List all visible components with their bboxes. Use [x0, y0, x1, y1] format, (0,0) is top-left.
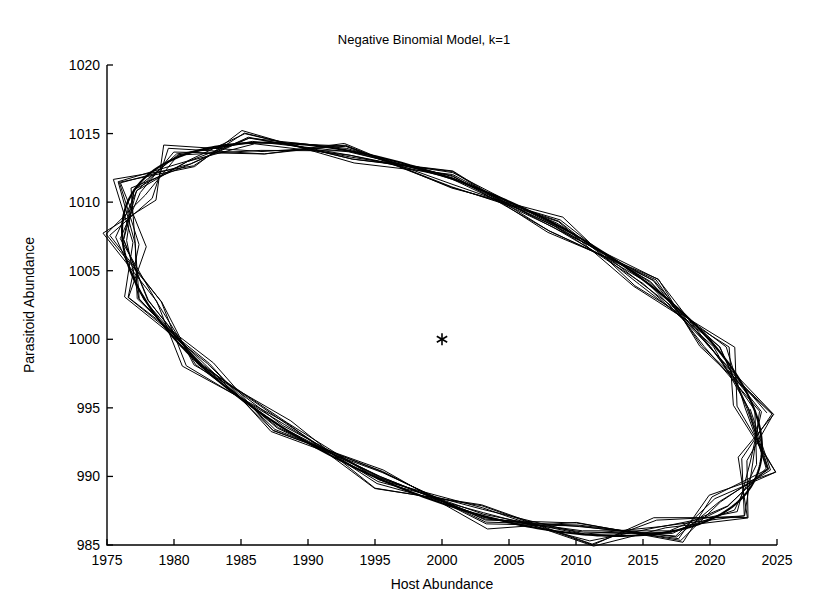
chart-title: Negative Binomial Model, k=1 — [338, 32, 510, 47]
y-tick-label: 1005 — [69, 263, 100, 279]
y-tick-label: 1010 — [69, 194, 100, 210]
x-axis-label: Host Abundance — [391, 576, 494, 592]
y-tick-label: 995 — [77, 400, 101, 416]
figure-container: Negative Binomial Model, k=1 19751980198… — [0, 0, 838, 611]
y-tick-label: 990 — [77, 468, 101, 484]
chart-canvas: Negative Binomial Model, k=1 19751980198… — [0, 0, 838, 611]
y-tick-label: 985 — [77, 537, 101, 553]
x-tick-label: 1985 — [225, 552, 256, 568]
x-tick-label: 2020 — [694, 552, 725, 568]
x-tick-label: 2005 — [493, 552, 524, 568]
x-tick-label: 1990 — [292, 552, 323, 568]
x-tick-label: 1995 — [359, 552, 390, 568]
y-tick-label: 1020 — [69, 57, 100, 73]
x-tick-label: 1980 — [158, 552, 189, 568]
y-tick-label: 1015 — [69, 126, 100, 142]
x-tick-label: 2015 — [627, 552, 658, 568]
x-tick-label: 2025 — [761, 552, 792, 568]
y-axis-label: Parasitoid Abundance — [21, 237, 37, 373]
x-tick-label: 2010 — [560, 552, 591, 568]
x-tick-label: 2000 — [426, 552, 457, 568]
x-tick-label: 1975 — [91, 552, 122, 568]
y-tick-label: 1000 — [69, 331, 100, 347]
